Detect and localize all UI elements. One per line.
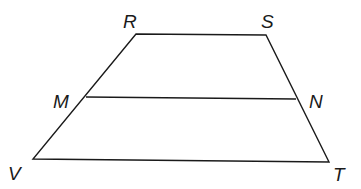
label-m: M: [53, 92, 69, 111]
segment-mn: [86, 97, 296, 99]
label-t: T: [333, 165, 345, 184]
trapezoid-diagram: R S M N V T: [0, 0, 361, 189]
label-v: V: [8, 164, 21, 183]
label-n: N: [309, 92, 323, 111]
label-r: R: [123, 12, 137, 31]
label-s: S: [261, 12, 274, 31]
